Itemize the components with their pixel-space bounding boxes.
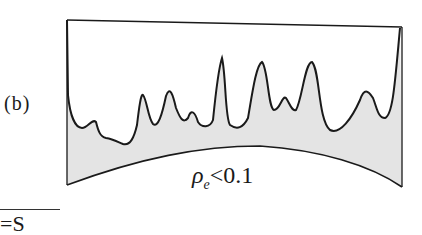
condition-relation: <0.1 — [210, 162, 254, 188]
density-condition-label: ρe<0.1 — [192, 162, 253, 193]
overline — [0, 209, 60, 210]
bottom-equation-fragment: =S — [0, 213, 25, 235]
profile-diagram — [0, 0, 422, 235]
top-edge — [67, 20, 402, 27]
rho-symbol: ρ — [192, 162, 204, 188]
